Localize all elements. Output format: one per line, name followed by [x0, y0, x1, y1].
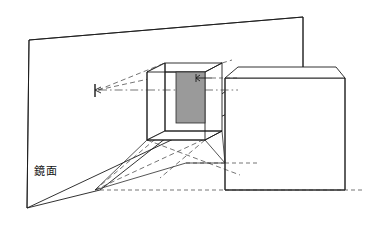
base-line-right: [205, 140, 225, 163]
mirror-plane-label: 鏡面: [34, 164, 57, 178]
perspective-diagram: 鏡面: [0, 0, 365, 225]
cube-left-face: [147, 63, 165, 140]
diagram-canvas: 鏡面: [0, 0, 365, 225]
shaded-panel: [176, 72, 205, 123]
solid-box: [225, 67, 345, 190]
shaded-panel-face: [176, 72, 205, 123]
ray-cross-b: [160, 140, 205, 178]
solid-box-front-face: [225, 78, 345, 190]
solid-box-top-face: [225, 67, 345, 78]
